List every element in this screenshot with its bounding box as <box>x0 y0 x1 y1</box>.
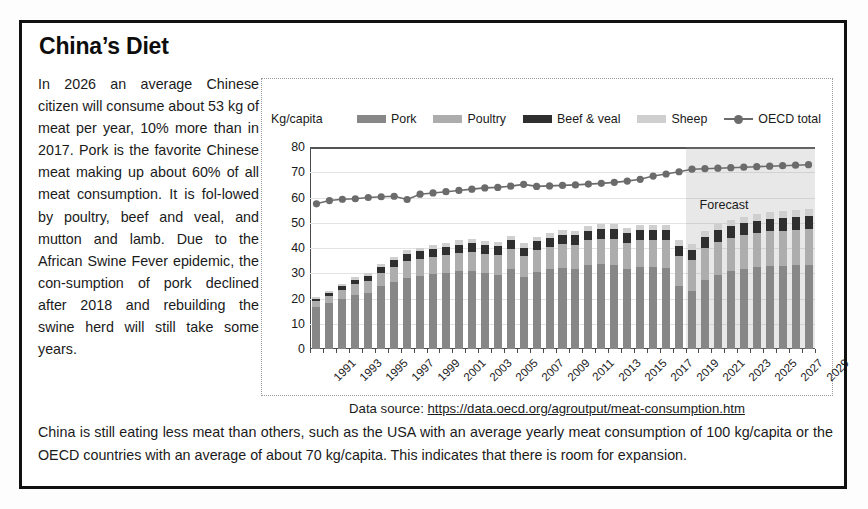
chart-unit-label: Kg/capita <box>271 112 323 126</box>
data-source: Data source: https://data.oecd.org/agrou… <box>261 401 833 416</box>
y-axis-tick-label: 60 <box>279 191 305 205</box>
x-axis-tick-label: 1991 <box>331 356 358 383</box>
x-axis-tick-label: 2009 <box>564 356 591 383</box>
x-axis-tick <box>750 349 751 353</box>
legend-label-pork: Pork <box>391 112 416 126</box>
x-axis-tick <box>660 349 661 353</box>
x-axis-tick <box>401 349 402 353</box>
x-axis-tick <box>711 349 712 353</box>
y-axis-tick-label: 80 <box>279 140 305 154</box>
page-title: China’s Diet <box>39 33 169 60</box>
x-axis-tick-label: 2007 <box>538 356 565 383</box>
legend-item-pork[interactable]: Pork <box>357 112 416 126</box>
x-axis-tick <box>517 349 518 353</box>
x-axis-tick-label: 1993 <box>357 356 384 383</box>
legend-item-sheep[interactable]: Sheep <box>637 112 707 126</box>
x-axis-tick <box>310 349 311 353</box>
x-axis-tick-label: 2005 <box>512 356 539 383</box>
x-axis-tick <box>569 349 570 353</box>
x-axis-tick <box>608 349 609 353</box>
x-axis-tick <box>686 349 687 353</box>
x-axis-tick <box>323 349 324 353</box>
legend-label-beef-veal: Beef & veal <box>557 112 620 126</box>
x-axis-tick-label: 2025 <box>771 356 798 383</box>
x-axis-tick-label: 2011 <box>590 356 617 383</box>
data-source-label: Data source: <box>349 401 424 416</box>
x-axis-tick-label: 2003 <box>486 356 513 383</box>
x-axis-tick <box>595 349 596 353</box>
x-axis-tick <box>362 349 363 353</box>
data-source-link[interactable]: https://data.oecd.org/agroutput/meat-con… <box>428 401 745 416</box>
x-axis-tick <box>439 349 440 353</box>
x-axis-tick-label: 2015 <box>642 356 669 383</box>
x-axis-tick-label: 2013 <box>616 356 643 383</box>
page-root: China’s Diet In 2026 an average Chinese … <box>0 0 868 509</box>
x-axis-tick-label: 1999 <box>435 356 462 383</box>
x-axis-tick <box>452 349 453 353</box>
oecd-total-line <box>310 147 815 349</box>
legend-item-poultry[interactable]: Poultry <box>433 112 506 126</box>
x-axis-tick <box>414 349 415 353</box>
closing-paragraph: China is still eating less meat than oth… <box>38 421 833 466</box>
legend-swatch-beef-veal <box>523 115 552 123</box>
x-axis-tick <box>530 349 531 353</box>
x-axis-tick-label: 2019 <box>694 356 721 383</box>
x-axis-tick <box>724 349 725 353</box>
x-axis-tick <box>698 349 699 353</box>
legend-line-oecd-total <box>724 114 753 124</box>
x-axis-tick <box>388 349 389 353</box>
x-axis-tick <box>375 349 376 353</box>
y-axis-tick-label: 30 <box>279 266 305 280</box>
plot-area: 01020304050607080 Forecast 1991199319951… <box>310 147 815 349</box>
x-axis-tick-label: 2017 <box>668 356 695 383</box>
x-axis-tick <box>582 349 583 353</box>
x-axis-tick <box>789 349 790 353</box>
x-axis-tick <box>478 349 479 353</box>
y-axis-tick-label: 70 <box>279 165 305 179</box>
x-axis-tick-label: 1997 <box>409 356 436 383</box>
x-axis-tick <box>504 349 505 353</box>
legend-label-oecd-total: OECD total <box>758 112 821 126</box>
y-axis-tick-label: 10 <box>279 317 305 331</box>
intro-paragraph: In 2026 an average Chinese citizen will … <box>38 73 259 360</box>
x-axis-tick <box>349 349 350 353</box>
y-axis-tick-label: 40 <box>279 241 305 255</box>
x-axis-tick <box>776 349 777 353</box>
legend-label-poultry: Poultry <box>467 112 506 126</box>
x-axis-tick <box>336 349 337 353</box>
x-axis-tick-label: 2027 <box>797 356 824 383</box>
x-axis-tick <box>737 349 738 353</box>
x-axis-tick <box>634 349 635 353</box>
x-axis-tick <box>673 349 674 353</box>
y-axis-tick-label: 0 <box>279 342 305 356</box>
y-axis-tick-label: 20 <box>279 292 305 306</box>
x-axis-tick <box>465 349 466 353</box>
legend-label-sheep: Sheep <box>671 112 707 126</box>
chart-legend: Pork Poultry Beef & veal Sheep OECD tota… <box>357 112 821 126</box>
x-axis-tick-label: 2023 <box>745 356 772 383</box>
x-axis-tick <box>802 349 803 353</box>
legend-swatch-poultry <box>433 115 462 123</box>
x-axis-tick <box>491 349 492 353</box>
legend-item-beef-veal[interactable]: Beef & veal <box>523 112 620 126</box>
x-axis-tick-label: 2029 <box>823 356 850 383</box>
x-axis-tick <box>815 349 816 353</box>
x-axis-tick <box>647 349 648 353</box>
legend-item-oecd-total[interactable]: OECD total <box>724 112 821 126</box>
x-axis-tick-label: 2021 <box>719 356 746 383</box>
x-axis-tick <box>543 349 544 353</box>
x-axis-tick-label: 2001 <box>461 356 488 383</box>
x-axis-tick <box>556 349 557 353</box>
legend-swatch-pork <box>357 115 386 123</box>
x-axis-tick <box>427 349 428 353</box>
x-axis-tick-label: 1995 <box>383 356 410 383</box>
x-axis-tick <box>621 349 622 353</box>
y-axis-tick-label: 50 <box>279 216 305 230</box>
chart-container: Kg/capita Pork Poultry Beef & veal Sheep <box>261 78 833 396</box>
x-axis-tick <box>763 349 764 353</box>
article-card: China’s Diet In 2026 an average Chinese … <box>19 20 847 489</box>
legend-swatch-sheep <box>637 115 666 123</box>
